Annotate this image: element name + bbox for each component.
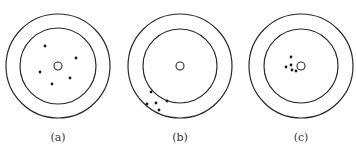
shot-dot [290,64,293,67]
bullseye-icon [176,62,184,70]
panel-b: (b) [128,14,232,144]
shot-dot [51,83,54,86]
shot-dot [295,70,298,73]
shot-dot [44,45,47,48]
shot-dot [290,56,293,59]
panel-label: (c) [294,131,309,144]
inner-ring [20,28,96,104]
shot-dot [39,71,42,74]
shot-dots [285,56,298,73]
diagram-canvas: (a) (b) (c) [0,0,356,148]
bullseye-icon [297,62,305,70]
shot-dot [166,100,169,103]
inner-ring [264,29,338,103]
shot-dot [285,66,288,69]
shot-dot [158,109,161,112]
shot-dot [291,69,294,72]
shot-dot [75,57,78,60]
panel-label: (a) [50,131,65,144]
inner-ring [143,29,217,103]
shot-dot [150,91,153,94]
panel-a: (a) [6,14,110,144]
shot-dot [155,102,158,105]
outer-ring [6,14,110,118]
panel-label: (b) [172,131,188,144]
shot-dots [39,45,78,86]
shot-dot [69,77,72,80]
shot-dot [146,103,149,106]
bullseye-icon [54,62,62,70]
panel-c: (c) [249,14,353,144]
